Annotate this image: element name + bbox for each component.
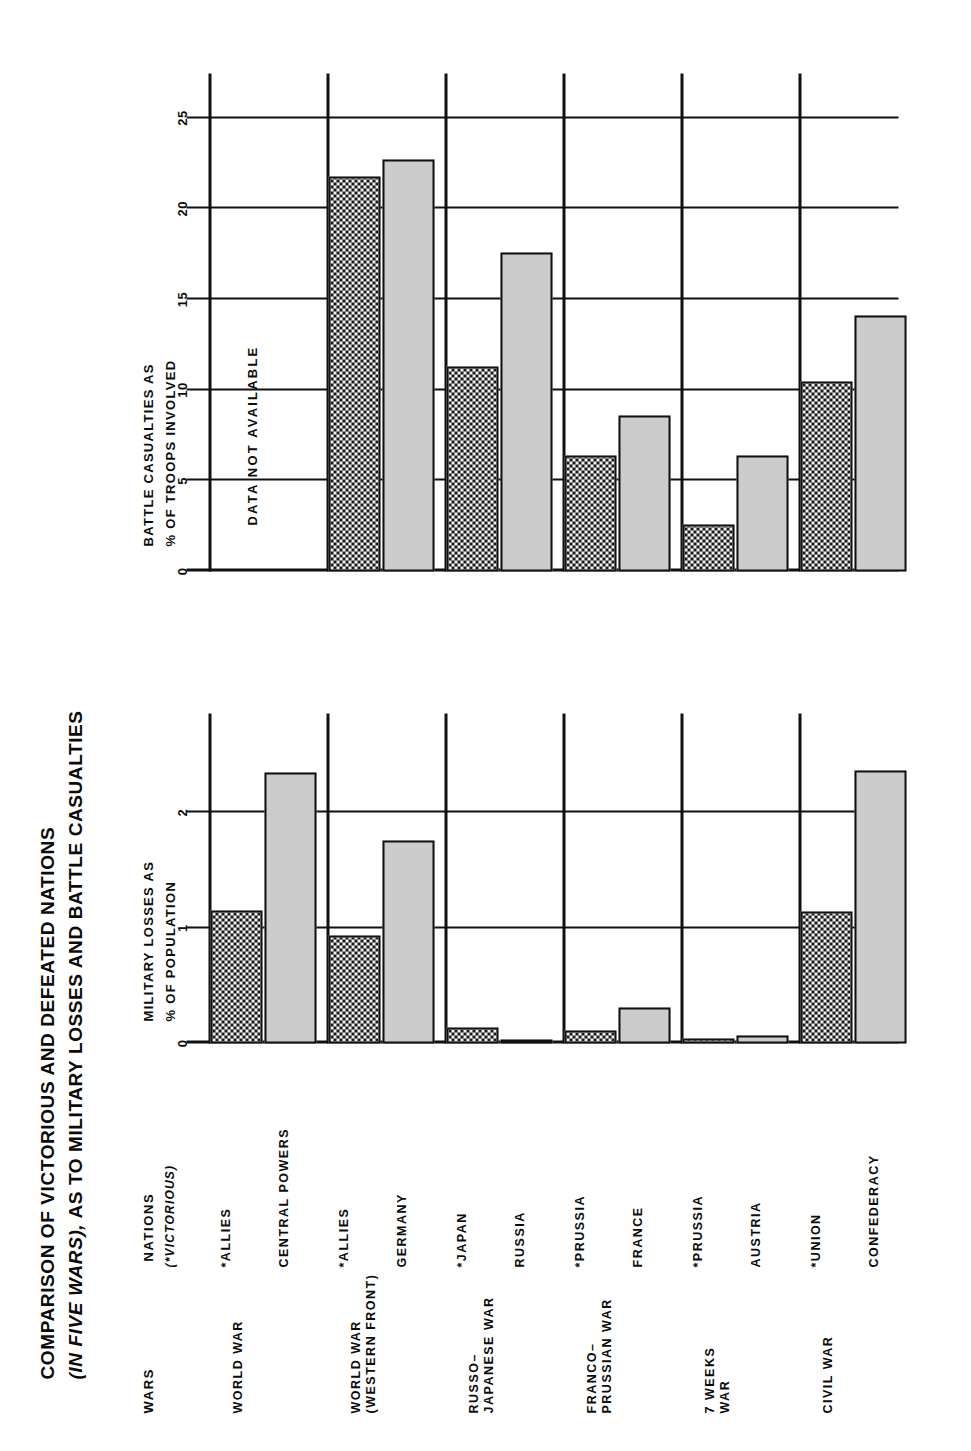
bar-chart2-victor — [800, 381, 852, 571]
chart1-row-baseline — [680, 713, 683, 1043]
nation-label-victor: *JAPAN — [454, 1212, 468, 1267]
bar-chart2-defeated — [382, 159, 434, 571]
bar-chart1-victor — [328, 935, 380, 1043]
bar-chart1-victor — [446, 1027, 498, 1043]
bar-chart2-victor — [564, 455, 616, 571]
war-label: FRANCO– PRUSSIAN WAR — [584, 1298, 614, 1413]
war-label: WORLD WAR (WESTERN FRONT) — [348, 1273, 378, 1413]
bar-chart1-victor — [210, 910, 262, 1043]
bar-chart1-victor — [682, 1038, 734, 1043]
war-label: WORLD WAR — [230, 1320, 245, 1413]
bar-chart1-defeated — [618, 1007, 670, 1043]
bar-chart2-defeated — [500, 252, 552, 571]
bar-chart1-defeated — [500, 1039, 552, 1043]
bar-chart2-defeated — [618, 415, 670, 571]
bar-chart2-defeated — [736, 455, 788, 571]
chart1-row-baseline — [444, 713, 447, 1043]
nation-label-defeated: RUSSIA — [512, 1211, 526, 1267]
chart2-row-baseline — [208, 73, 211, 571]
nation-label-victor: *ALLIES — [218, 1207, 232, 1267]
nation-label-victor: *PRUSSIA — [690, 1195, 704, 1267]
chart2-row-baseline — [680, 73, 683, 571]
nation-label-defeated: GERMANY — [394, 1193, 408, 1267]
chart1-row-baseline — [562, 713, 565, 1043]
bar-chart1-defeated — [736, 1035, 788, 1043]
bar-chart1-victor — [564, 1030, 616, 1043]
bar-chart2-defeated — [854, 315, 906, 571]
nation-label-defeated: AUSTRIA — [748, 1201, 762, 1267]
figure-root: COMPARISON OF VICTORIOUS AND DEFEATED NA… — [0, 0, 971, 1451]
bar-chart2-victor — [328, 176, 380, 571]
nation-label-defeated: FRANCE — [630, 1206, 644, 1267]
bar-chart1-defeated — [854, 770, 906, 1043]
nation-label-defeated: CENTRAL POWERS — [276, 1127, 290, 1267]
war-label: CIVIL WAR — [820, 1335, 835, 1413]
nation-label-victor: *ALLIES — [336, 1207, 350, 1267]
war-label: RUSSO– JAPANESE WAR — [466, 1296, 496, 1413]
bar-chart2-victor — [446, 366, 498, 571]
nation-label-defeated: CONFEDERACY — [866, 1154, 880, 1267]
bar-chart1-victor — [800, 911, 852, 1043]
bar-chart2-victor — [682, 524, 734, 571]
bar-chart1-defeated — [264, 772, 316, 1043]
war-label: 7 WEEKS WAR — [702, 1346, 732, 1413]
data-not-available-note: DATA NOT AVAILABLE — [244, 345, 259, 525]
nation-label-victor: *PRUSSIA — [572, 1195, 586, 1267]
bar-chart1-defeated — [382, 840, 434, 1043]
nation-label-victor: *UNION — [808, 1213, 822, 1267]
